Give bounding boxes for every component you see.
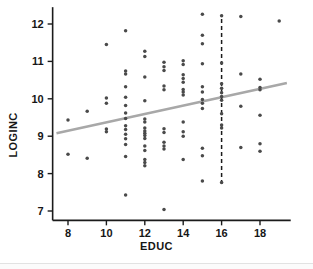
data-point (181, 81, 185, 85)
data-point (181, 59, 185, 63)
data-point (162, 144, 166, 148)
data-point (201, 154, 205, 158)
data-point (239, 146, 243, 150)
data-point (143, 158, 147, 162)
data-point (258, 114, 262, 118)
data-point (201, 33, 205, 37)
data-point (162, 65, 166, 69)
y-tick-label-10: 10 (31, 93, 43, 105)
data-point (105, 102, 109, 106)
data-point (124, 193, 128, 197)
data-point (143, 149, 147, 153)
data-point (220, 123, 224, 127)
data-point (220, 181, 224, 185)
x-axis-title: EDUC (0, 240, 313, 252)
data-point (201, 90, 205, 94)
data-point (201, 107, 205, 111)
data-point (201, 85, 205, 89)
data-point (124, 128, 128, 132)
data-point (220, 61, 224, 65)
data-point (220, 87, 224, 91)
data-point (162, 88, 166, 92)
x-tick-label-18: 18 (254, 227, 266, 239)
data-point (124, 117, 128, 121)
data-point (143, 117, 147, 121)
data-point (201, 146, 205, 150)
data-point (239, 15, 243, 19)
data-point (220, 91, 224, 95)
data-point (162, 84, 166, 88)
data-point (124, 111, 128, 115)
data-point (105, 130, 109, 134)
regression-fit-line (56, 83, 286, 133)
data-point (143, 50, 147, 54)
data-point (124, 143, 128, 147)
y-axis-title: LOGINC (7, 100, 19, 170)
data-point (143, 134, 147, 138)
data-point (239, 105, 243, 109)
data-point (143, 164, 147, 168)
data-point (162, 69, 166, 73)
data-point (105, 96, 109, 100)
data-point (162, 140, 166, 144)
data-point (220, 126, 224, 130)
data-point (220, 95, 224, 99)
y-tick-label-8: 8 (38, 168, 44, 180)
data-point (162, 208, 166, 212)
data-point (239, 72, 243, 76)
data-point (201, 62, 205, 66)
data-point (143, 137, 147, 141)
x-tick-label-14: 14 (177, 227, 190, 239)
data-point (258, 88, 262, 92)
data-point (162, 147, 166, 151)
fit-line-group (56, 83, 286, 133)
data-point (66, 152, 70, 156)
x-tick-label-16: 16 (215, 227, 227, 239)
data-point (124, 29, 128, 33)
data-point (181, 120, 185, 124)
y-tick-label-9: 9 (38, 130, 44, 142)
data-point (124, 69, 128, 73)
data-point (201, 98, 205, 102)
data-point (143, 55, 147, 59)
data-point (220, 112, 224, 116)
data-point (124, 96, 128, 100)
data-point (258, 142, 262, 146)
data-point (124, 137, 128, 141)
x-tick-label-8: 8 (65, 227, 71, 239)
data-point (143, 161, 147, 165)
y-tick-label-12: 12 (31, 18, 43, 30)
data-point (143, 144, 147, 148)
data-point (220, 14, 224, 18)
data-point (124, 72, 128, 76)
y-tick-label-7: 7 (38, 205, 44, 217)
x-tick-label-12: 12 (139, 227, 151, 239)
data-point (143, 120, 147, 124)
tick-marks-group (48, 24, 260, 225)
axes-group (53, 7, 291, 220)
data-point (162, 131, 166, 135)
data-point (181, 73, 185, 77)
data-point (181, 77, 185, 81)
data-point (181, 134, 185, 138)
data-point (143, 99, 147, 103)
plot-canvas: 81012141618789101112 (0, 0, 313, 269)
data-point (181, 158, 185, 162)
data-point (124, 124, 128, 128)
data-point (124, 104, 128, 108)
data-point (143, 126, 147, 130)
data-point (220, 82, 224, 86)
page-bottom-edge (0, 263, 313, 269)
data-points-group (66, 13, 281, 212)
data-point (85, 157, 89, 161)
data-point (258, 78, 262, 82)
tick-labels-group: 81012141618789101112 (31, 18, 266, 239)
data-point (258, 149, 262, 153)
y-tick-label-11: 11 (32, 55, 44, 67)
data-point (162, 127, 166, 131)
data-point (181, 63, 185, 67)
x-tick-label-10: 10 (100, 227, 112, 239)
data-point (162, 60, 166, 64)
data-point (201, 179, 205, 183)
data-point (124, 85, 128, 89)
